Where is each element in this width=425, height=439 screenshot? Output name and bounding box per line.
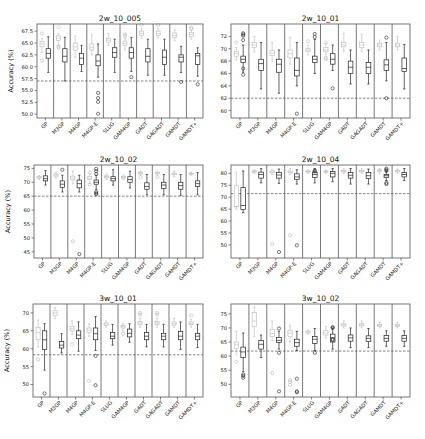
- outlier-point: [57, 26, 60, 29]
- box-iqr: [384, 175, 389, 178]
- x-tick-label: M3GP: [247, 120, 262, 135]
- box-iqr: [324, 48, 328, 52]
- y-tick-label: 60.0: [21, 64, 33, 70]
- box-SLUG-light: [104, 321, 108, 327]
- box-GP-dark: [43, 171, 47, 185]
- x-tick-label: GAMDT+: [384, 399, 405, 420]
- box-GAM4GP-light: [123, 33, 127, 50]
- y-axis-label: Accuracy (%): [3, 329, 11, 372]
- box-GAGADT-light: [155, 171, 159, 179]
- box-GP-dark: [46, 37, 50, 73]
- box-GAGADT-light: [156, 23, 160, 38]
- box-GAM4GP-dark: [128, 171, 132, 188]
- x-tick-label: M4GP: [265, 399, 280, 414]
- box-M4GP-dark: [77, 175, 81, 255]
- box-iqr: [259, 172, 264, 178]
- box-SLUG-light: [105, 174, 109, 180]
- y-tick-label: 75: [220, 182, 227, 188]
- box-iqr: [145, 183, 149, 189]
- box-GP-dark: [241, 333, 246, 379]
- y-tick-label: 75: [220, 311, 227, 317]
- box-GAMDT-light: [173, 30, 177, 41]
- box-GP-dark: [42, 324, 46, 395]
- y-tick-label: 62.5: [21, 52, 33, 58]
- y-tick-label: 55: [220, 230, 227, 236]
- box-GP-light: [40, 32, 44, 62]
- box-GAMDT+-dark: [402, 331, 407, 347]
- box-GAMDT+-dark: [402, 169, 407, 181]
- outlier-point: [156, 176, 159, 179]
- x-tick-label: GAGADT: [145, 260, 166, 281]
- outlier-point: [94, 384, 97, 387]
- box-GAGADT-dark: [162, 174, 166, 194]
- box-M3GP-dark: [60, 168, 64, 192]
- chart-title: 2w_10_04: [302, 155, 340, 164]
- box-M4GP-light: [73, 36, 77, 57]
- box-GAGADT-dark: [161, 324, 165, 347]
- outlier-point: [385, 36, 388, 39]
- outlier-point: [96, 100, 99, 103]
- outlier-point: [277, 327, 280, 330]
- y-tick-label: 65: [220, 206, 227, 212]
- x-tick-label: M3GP: [48, 260, 63, 275]
- y-tick-label: 50: [22, 381, 29, 387]
- x-tick-label: GAMDT+: [177, 399, 198, 420]
- box-GP-dark: [241, 32, 246, 77]
- box-GAM4GP-light: [324, 170, 328, 174]
- box-GADT-light: [138, 311, 142, 327]
- box-GAGADT-dark: [366, 329, 371, 348]
- chart-panel-2w_10_005: 2w_10_005Accuracy (%)50.052.555.057.560.…: [7, 14, 203, 141]
- x-tick-label: GAGADT: [349, 260, 370, 281]
- x-tick-label: GAMDT+: [177, 260, 198, 281]
- box-GADT-light: [342, 321, 346, 328]
- box-GAMDT+-light: [189, 172, 193, 175]
- outlier-point: [277, 250, 280, 253]
- box-M4GP-dark: [79, 45, 83, 71]
- x-tick-label: GP: [37, 260, 46, 269]
- y-tick-label: 50: [220, 242, 227, 248]
- box-GADT-dark: [348, 328, 353, 348]
- chart-panel-2w_10_02: 2w_10_02Accuracy (%)45505560657075GPM3GP…: [4, 155, 203, 281]
- box-M3GP-light: [252, 170, 256, 174]
- box-M3GP-light: [252, 307, 256, 337]
- box-GAMDT-dark: [178, 174, 182, 195]
- box-GADT-dark: [145, 174, 149, 194]
- x-tick-label: SLUG: [301, 120, 315, 134]
- box-iqr: [96, 55, 100, 66]
- box-M4GP-dark: [277, 327, 282, 393]
- x-tick-label: GAGADT: [349, 399, 370, 420]
- x-tick-label: M4GP-E: [279, 399, 297, 417]
- box-M3GP-light: [57, 26, 61, 50]
- box-GAGADT-dark: [366, 50, 371, 84]
- y-tick-label: 70: [220, 46, 227, 52]
- outlier-point: [235, 41, 238, 44]
- outlier-point: [130, 76, 133, 79]
- box-GP-light: [37, 175, 41, 179]
- outlier-point: [71, 343, 74, 346]
- x-tick-label: GAM4GP: [111, 260, 131, 280]
- outlier-point: [190, 314, 193, 317]
- chart-title: 3w_10_02: [302, 294, 340, 303]
- box-SLUG-dark: [113, 39, 117, 72]
- chart-title: 2w_10_02: [100, 155, 138, 164]
- x-tick-label: GAGADT: [349, 120, 370, 141]
- box-iqr: [312, 336, 317, 343]
- box-iqr: [110, 333, 114, 339]
- box-GAMDT-dark: [384, 167, 389, 186]
- outlier-point: [295, 112, 298, 115]
- box-GAMDT-light: [377, 40, 381, 50]
- y-tick-label: 66: [220, 70, 227, 76]
- x-tick-label: SLUG: [301, 260, 315, 274]
- box-iqr: [259, 341, 264, 349]
- x-tick-label: GADT: [133, 260, 148, 275]
- box-GAMDT+-dark: [195, 324, 199, 347]
- x-tick-label: M4GP: [265, 260, 280, 275]
- outlier-point: [96, 112, 99, 115]
- box-iqr: [59, 342, 63, 348]
- box-GAM4GP-light: [121, 324, 125, 336]
- x-tick-label: M4GP: [64, 399, 79, 414]
- box-M4GP-light: [270, 321, 274, 375]
- box-iqr: [178, 332, 182, 340]
- x-tick-label: SLUG: [99, 399, 113, 413]
- outlier-point: [288, 234, 291, 237]
